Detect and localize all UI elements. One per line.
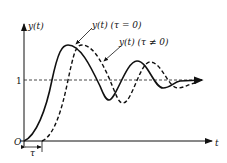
label-no-delay: y(t) (τ = 0) (91, 20, 142, 30)
origin-label: O (14, 137, 22, 147)
curve-no-delay (24, 45, 202, 141)
delay-label: τ (30, 148, 36, 158)
step-response-diagram: y(t) t O 1 y(t) (τ = 0) y(t) (τ ≠ 0) τ (0, 0, 227, 163)
y-axis-label: y(t) (27, 21, 44, 31)
label-with-delay: y(t) (τ ≠ 0) (118, 37, 169, 47)
pointer-no-delay (76, 28, 92, 44)
curve-with-delay (42, 45, 196, 141)
pointer-with-delay (104, 46, 121, 61)
reference-level-label: 1 (16, 76, 22, 86)
x-axis-label: t (215, 138, 219, 148)
